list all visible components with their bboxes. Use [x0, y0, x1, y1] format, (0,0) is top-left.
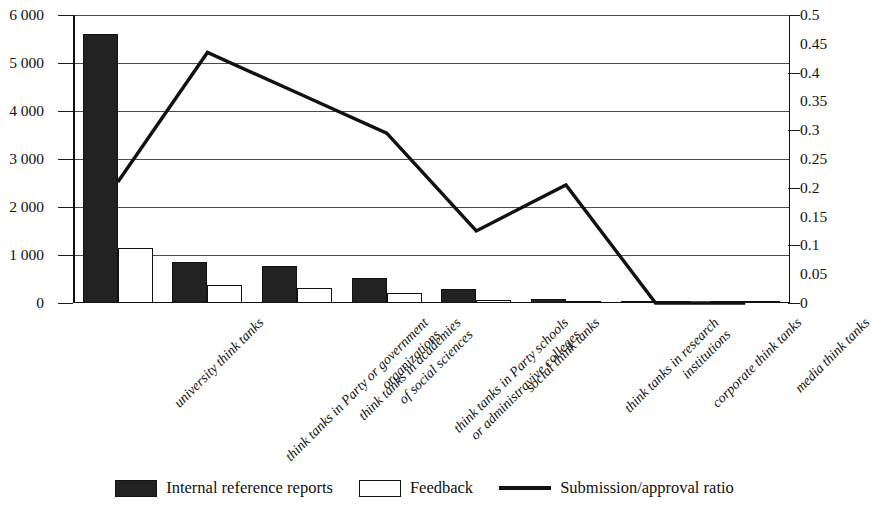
- y-axis-tick-label: 5 000: [9, 55, 44, 71]
- y-axis-tick-label: 2 000: [9, 199, 44, 215]
- plot-area: [73, 15, 790, 303]
- legend-swatch-filled-icon: [115, 480, 157, 497]
- bar-internal-reference-reports: [172, 262, 207, 303]
- bar-internal-reference-reports: [83, 34, 118, 303]
- y-axis-tick-mark: [58, 111, 73, 112]
- bar-feedback: [656, 301, 691, 303]
- bar-feedback: [566, 301, 601, 303]
- bar-internal-reference-reports: [621, 301, 656, 303]
- bar-internal-reference-reports: [710, 301, 745, 303]
- bar-internal-reference-reports: [531, 299, 566, 303]
- legend-label: Internal reference reports: [166, 478, 333, 498]
- y2-axis-tick-label: 0.35: [800, 94, 827, 110]
- y-axis-tick-mark: [58, 15, 73, 16]
- y2-axis-tick-label: 0.2: [800, 180, 819, 196]
- submission-approval-ratio-line: [118, 52, 745, 303]
- legend-swatch-hollow-icon: [359, 480, 401, 497]
- y-axis-spine: [73, 15, 75, 303]
- bar-feedback: [207, 285, 242, 303]
- x-axis-category-label-line: university think tanks: [171, 315, 267, 411]
- y-axis-tick-label: 1 000: [9, 247, 44, 263]
- y2-axis-spine: [789, 15, 790, 303]
- legend-item[interactable]: Submission/approval ratio: [499, 478, 734, 498]
- bar-internal-reference-reports: [352, 278, 387, 303]
- y2-axis-tick-label: 0.05: [800, 266, 827, 282]
- legend-item[interactable]: Feedback: [359, 478, 473, 498]
- x-axis-category-labels: university think tanksthink tanks in Par…: [0, 303, 849, 468]
- x-axis-category-label-line: think tanks in research: [621, 315, 722, 416]
- bar-feedback: [745, 301, 780, 303]
- x-axis-category-label: think tanks in Party or governmentorgani…: [283, 315, 445, 477]
- y-axis-tick-mark: [58, 63, 73, 64]
- legend-label: Submission/approval ratio: [560, 478, 734, 498]
- y-axis-tick-mark: [58, 159, 73, 160]
- y2-axis-tick-label: 0.3: [800, 122, 819, 138]
- y-axis-tick-label: 3 000: [9, 151, 44, 167]
- bar-feedback: [118, 248, 153, 303]
- y-axis-tick-label: 6 000: [9, 7, 44, 23]
- chart-legend: Internal reference reportsFeedbackSubmis…: [0, 478, 849, 498]
- y2-axis-tick-label: 0.5: [800, 7, 819, 23]
- x-axis-category-label: university think tanks: [171, 315, 267, 411]
- legend-label: Feedback: [410, 478, 473, 498]
- bar-feedback: [387, 293, 422, 303]
- y-axis-tick-mark: [58, 255, 73, 256]
- bar-internal-reference-reports: [262, 266, 297, 303]
- y2-axis-tick-label: 0.45: [800, 36, 827, 52]
- bar-feedback: [476, 300, 511, 303]
- line-series-layer: [73, 15, 790, 303]
- bar-feedback: [297, 288, 332, 303]
- y2-axis-tick-label: 0.25: [800, 151, 827, 167]
- y-axis-tick-label: 4 000: [9, 103, 44, 119]
- y2-axis-tick-label: 0.1: [800, 238, 819, 254]
- x-axis-category-label: think tanks in researchinstitutions: [621, 315, 734, 428]
- y-axis-tick-mark: [58, 207, 73, 208]
- legend-item[interactable]: Internal reference reports: [115, 478, 333, 498]
- legend-swatch-line-icon: [499, 486, 551, 490]
- bar-internal-reference-reports: [441, 289, 476, 303]
- y2-axis-tick-label: 0.15: [800, 209, 827, 225]
- y2-axis-tick-label: 0.4: [800, 65, 819, 81]
